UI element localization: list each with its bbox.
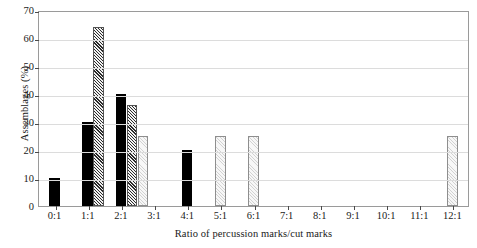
x-tick-label: 6:1 (247, 210, 260, 221)
y-tick-mark (35, 180, 39, 181)
gridline (39, 68, 468, 69)
y-tick-label: 30 (0, 118, 34, 129)
y-tick-label: 10 (0, 174, 34, 185)
bar (82, 122, 93, 206)
bar (447, 136, 458, 206)
gridline (39, 96, 468, 97)
x-axis-title: Ratio of percussion marks/cut marks (38, 228, 469, 239)
gridline (39, 180, 468, 181)
x-tick-label: 10:1 (377, 210, 396, 221)
x-tick-label: 4:1 (180, 210, 193, 221)
bar (248, 136, 259, 206)
bar (49, 178, 60, 206)
y-tick-mark (35, 12, 39, 13)
bar (182, 150, 193, 206)
y-tick-mark (35, 96, 39, 97)
gridline (39, 152, 468, 153)
y-tick-mark (35, 124, 39, 125)
x-tick-label: 12:1 (443, 210, 462, 221)
bars-layer (39, 12, 468, 206)
y-tick-label: 50 (0, 62, 34, 73)
y-tick-label: 20 (0, 146, 34, 157)
x-tick-label: 0:1 (48, 210, 61, 221)
x-tick-label: 7:1 (280, 210, 293, 221)
x-tick-label: 11:1 (410, 210, 428, 221)
x-axis-tick-labels: 0:11:12:13:14:15:16:17:18:19:110:111:112… (38, 210, 469, 226)
x-tick-label: 3:1 (147, 210, 160, 221)
bar (127, 105, 138, 206)
y-axis-tick-labels: 010203040506070 (0, 0, 34, 248)
y-tick-mark (35, 152, 39, 153)
plot-area (38, 11, 469, 207)
y-tick-mark (35, 40, 39, 41)
bar (138, 136, 149, 206)
bar (215, 136, 226, 206)
y-tick-label: 40 (0, 90, 34, 101)
x-tick-label: 2:1 (114, 210, 127, 221)
y-tick-label: 60 (0, 34, 34, 45)
x-tick-label: 9:1 (346, 210, 359, 221)
x-tick-label: 5:1 (214, 210, 227, 221)
y-tick-label: 70 (0, 6, 34, 17)
y-tick-mark (35, 68, 39, 69)
gridline (39, 40, 468, 41)
gridline (39, 124, 468, 125)
y-tick-label: 0 (0, 202, 34, 213)
bar-chart: Assemblages (%) 010203040506070 0:11:12:… (0, 0, 477, 248)
x-tick-label: 1:1 (81, 210, 94, 221)
x-tick-label: 8:1 (313, 210, 326, 221)
bar (116, 94, 127, 206)
